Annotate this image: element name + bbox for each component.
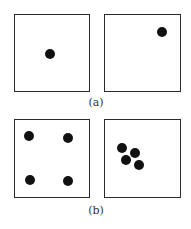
dot — [157, 27, 167, 37]
dot — [63, 133, 73, 143]
panel-b-caption: (b) — [88, 204, 104, 217]
panel-a-caption: (a) — [88, 96, 103, 109]
dot — [121, 155, 131, 165]
dot — [45, 49, 55, 59]
dot — [134, 160, 144, 170]
dot — [130, 148, 140, 158]
dot — [25, 175, 35, 185]
panel-a-right-box — [104, 14, 181, 92]
dot — [24, 131, 34, 141]
panel-b-right-box — [104, 119, 181, 198]
dot — [63, 176, 73, 186]
dot — [117, 143, 127, 153]
